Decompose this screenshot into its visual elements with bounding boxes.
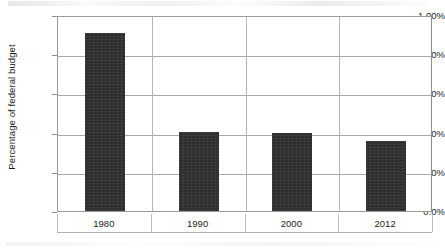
category-divider (246, 17, 247, 211)
bar-2000 (272, 133, 312, 211)
x-axis-tick (245, 214, 246, 232)
x-axis-tick (338, 214, 339, 232)
category-divider (152, 17, 153, 211)
x-axis-tick (432, 214, 433, 232)
bar-1990 (179, 132, 219, 211)
x-tick-label-1980: 1980 (57, 218, 151, 229)
scan-artifact-top (8, 1, 428, 6)
scan-artifact-bottom (6, 242, 436, 246)
x-tick-label-2000: 2000 (245, 218, 339, 229)
x-tick-label-1990: 1990 (151, 218, 245, 229)
y-tick-mark (52, 212, 57, 213)
bar-2012 (366, 141, 406, 211)
x-tick-label-2012: 2012 (338, 218, 432, 229)
y-axis-title: Percentage of federal budget (4, 1, 20, 213)
bar-1980 (85, 33, 125, 211)
x-axis-tick (57, 214, 58, 232)
plot-area (57, 16, 432, 212)
bar-chart-figure: Percentage of federal budget 1.00%0.80%0… (0, 0, 445, 248)
category-divider (339, 17, 340, 211)
x-axis-tick (151, 214, 152, 232)
